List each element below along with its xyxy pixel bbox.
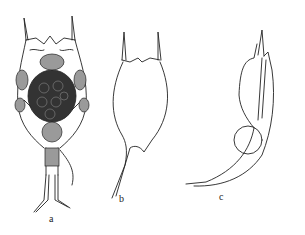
panel-a-label: a: [49, 213, 53, 224]
panel-c-label: c: [219, 191, 223, 202]
panel-a-gut: [28, 70, 76, 122]
illustration-svg: [0, 0, 305, 235]
panel-b-label: b: [119, 193, 124, 204]
figure: a b c: [0, 0, 305, 235]
panel-c-drawing: [186, 30, 274, 186]
panel-b-drawing: [112, 32, 168, 198]
